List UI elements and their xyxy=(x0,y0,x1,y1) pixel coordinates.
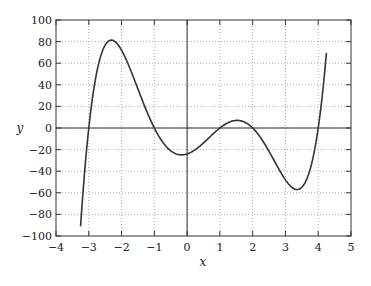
x-tick-label: 2 xyxy=(249,241,256,254)
y-axis-label: y xyxy=(16,121,24,135)
y-tick-label: 0 xyxy=(45,122,52,135)
y-tick-label: −40 xyxy=(29,165,52,178)
x-tick-label: −3 xyxy=(81,241,97,254)
y-tick-label: −20 xyxy=(29,144,52,157)
y-tick-label: 20 xyxy=(38,100,52,113)
y-tick-label: −80 xyxy=(29,208,52,221)
x-tick-label: 0 xyxy=(184,241,191,254)
x-tick-label: 1 xyxy=(216,241,223,254)
y-tick-label: 40 xyxy=(38,79,52,92)
polynomial-curve xyxy=(81,40,327,226)
y-tick-label: 100 xyxy=(31,14,52,27)
y-tick-label: −100 xyxy=(22,230,52,243)
x-tick-label: 5 xyxy=(348,241,355,254)
x-tick-label: −1 xyxy=(146,241,162,254)
y-tick-label: 80 xyxy=(38,36,52,49)
x-tick-labels: −4−3−2−1012345 xyxy=(48,241,355,254)
x-tick-label: −2 xyxy=(113,241,129,254)
x-tick-label: 3 xyxy=(282,241,289,254)
x-tick-label: 4 xyxy=(315,241,322,254)
x-axis-label: x xyxy=(200,255,207,269)
y-tick-label: −60 xyxy=(29,187,52,200)
y-tick-label: 60 xyxy=(38,57,52,70)
y-tick-labels: −100−80−60−40−20020406080100 xyxy=(22,14,52,243)
zero-axis-lines xyxy=(56,20,351,236)
line-chart: −4−3−2−1012345 −100−80−60−40−20020406080… xyxy=(0,0,371,286)
